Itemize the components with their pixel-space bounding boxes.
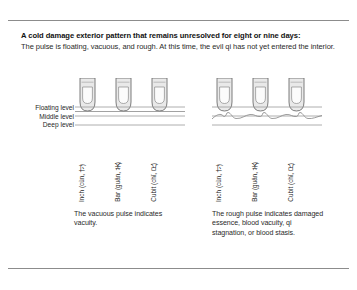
figure-top-rule: [8, 20, 349, 21]
finger-group-left: [80, 78, 167, 111]
level-label-deep: Deep level: [12, 121, 74, 130]
figure-description: The pulse is floating, vacuous, and roug…: [21, 42, 336, 52]
fingernail-bar: [119, 87, 129, 104]
fingernail-bar: [256, 87, 266, 104]
position-label-bar: Bar (guān, 关): [115, 162, 121, 202]
position-labels-left: Inch (cùn, 寸) Bar (guān, 关) Cubit (chǐ, …: [75, 142, 185, 202]
level-label-middle: Middle level: [12, 113, 74, 122]
position-label-bar: Bar (guān, 关): [252, 162, 258, 202]
level-label-group: Floating level Middle level Deep level: [12, 104, 74, 130]
figure-title: A cold damage exterior pattern that rema…: [21, 31, 339, 41]
position-label-cubit: Cubit (chǐ, 尺): [151, 163, 157, 202]
vacuous-pulse-diagram: [75, 78, 185, 140]
position-labels-right: Inch (cùn, 寸) Bar (guān, 关) Cubit (chǐ, …: [212, 142, 322, 202]
figure-bottom-rule: [8, 268, 349, 269]
figure-container: A cold damage exterior pattern that rema…: [0, 0, 357, 290]
level-label-floating: Floating level: [12, 104, 74, 113]
fingernail-cubit: [155, 87, 165, 104]
fingernail-cubit: [292, 87, 302, 104]
position-label-inch: Inch (cùn, 寸): [216, 164, 222, 202]
caption-rough-pulse: The rough pulse indicates damaged essenc…: [212, 210, 324, 238]
position-label-inch: Inch (cùn, 寸): [79, 164, 85, 202]
fingernail-inch: [220, 87, 230, 104]
caption-vacuous-pulse: The vacuous pulse indicates vacuity.: [74, 210, 182, 229]
position-label-cubit: Cubit (chǐ, 尺): [288, 163, 294, 202]
fingernail-inch: [83, 87, 93, 104]
finger-group-right: [217, 78, 304, 111]
rough-pulse-diagram: [212, 78, 322, 140]
